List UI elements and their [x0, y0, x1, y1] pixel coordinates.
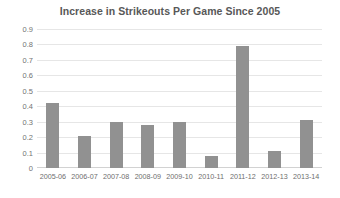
- bar: [78, 136, 91, 168]
- y-tick-label: 0.2: [0, 133, 33, 142]
- y-tick-label: 0.1: [0, 148, 33, 157]
- bar: [141, 125, 154, 168]
- bar: [236, 46, 249, 168]
- y-tick-label: 0.8: [0, 40, 33, 49]
- y-tick-label: 0.3: [0, 117, 33, 126]
- chart-figure: Increase in Strikeouts Per Game Since 20…: [0, 0, 340, 198]
- y-tick-label: 0.9: [0, 25, 33, 34]
- y-tick-label: 0: [0, 164, 33, 173]
- bar: [268, 151, 281, 168]
- bar: [205, 156, 218, 168]
- plot-area: [37, 29, 322, 168]
- y-tick-label: 0.5: [0, 86, 33, 95]
- bar: [300, 120, 313, 168]
- bar-series: [37, 29, 322, 168]
- y-tick-label: 0.4: [0, 102, 33, 111]
- x-tick-label: 2013-14: [286, 172, 326, 181]
- y-tick-label: 0.7: [0, 55, 33, 64]
- bar: [110, 122, 123, 168]
- bar: [173, 122, 186, 168]
- x-axis-tick-labels: 2005-062006-072007-082008-092009-102010-…: [37, 172, 322, 186]
- y-axis-tick-labels: 0.90.80.70.60.50.40.30.20.10: [0, 29, 33, 168]
- bar: [46, 103, 59, 168]
- chart-title: Increase in Strikeouts Per Game Since 20…: [0, 5, 340, 17]
- y-tick-label: 0.6: [0, 71, 33, 80]
